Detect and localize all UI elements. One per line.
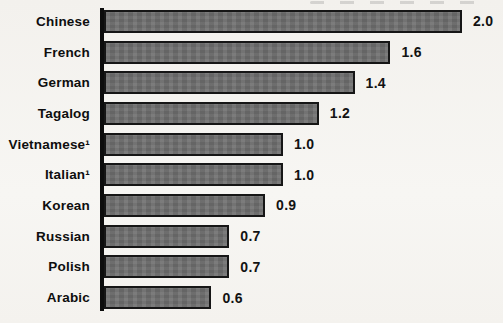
category-label: Arabic (0, 290, 96, 305)
category-label: German (0, 75, 96, 90)
value-label: 1.4 (366, 75, 386, 91)
category-label: Tagalog (0, 106, 96, 121)
bar-row: Vietnamese¹1.0 (0, 129, 503, 160)
bar (104, 133, 283, 156)
bar (104, 163, 283, 186)
category-label: Russian (0, 229, 96, 244)
bar-row: Russian0.7 (0, 221, 503, 252)
bar-row: Korean0.9 (0, 190, 503, 221)
bar (104, 102, 319, 125)
chart-rows: Chinese2.0French1.6German1.4Tagalog1.2Vi… (0, 6, 503, 313)
bar-row: Tagalog1.2 (0, 98, 503, 129)
scan-artifact (310, 1, 490, 4)
category-label: Chinese (0, 14, 96, 29)
horizontal-bar-chart: Chinese2.0French1.6German1.4Tagalog1.2Vi… (0, 0, 503, 323)
value-label: 1.0 (294, 167, 314, 183)
bar (104, 225, 229, 248)
value-label: 0.9 (276, 197, 296, 213)
bar-row: German1.4 (0, 67, 503, 98)
value-label: 0.7 (240, 259, 260, 275)
bar (104, 41, 390, 64)
value-label: 1.0 (294, 136, 314, 152)
value-label: 0.6 (222, 290, 242, 306)
bar-row: Chinese2.0 (0, 6, 503, 37)
bar (104, 10, 462, 33)
bar-row: Italian¹1.0 (0, 159, 503, 190)
bar (104, 255, 229, 278)
bar-row: Arabic0.6 (0, 282, 503, 313)
bar (104, 286, 211, 309)
bar (104, 194, 265, 217)
category-label: Polish (0, 259, 96, 274)
category-label: Korean (0, 198, 96, 213)
value-label: 2.0 (473, 13, 493, 29)
bar-row: Polish0.7 (0, 252, 503, 283)
category-label: French (0, 45, 96, 60)
value-label: 1.6 (401, 44, 421, 60)
value-label: 1.2 (330, 105, 350, 121)
category-label: Vietnamese¹ (0, 137, 96, 152)
value-label: 0.7 (240, 228, 260, 244)
category-label: Italian¹ (0, 167, 96, 182)
bar-row: French1.6 (0, 37, 503, 68)
bar (104, 71, 355, 94)
